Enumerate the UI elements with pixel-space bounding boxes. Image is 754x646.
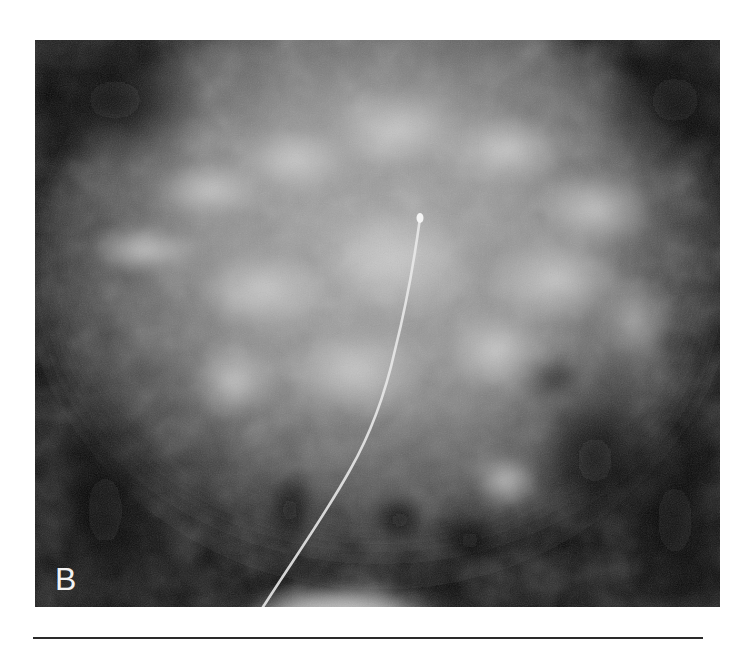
catheter-tip <box>417 213 424 223</box>
horizontal-rule <box>33 637 703 639</box>
panel-label: B <box>55 563 76 595</box>
radiograph-image <box>35 40 720 607</box>
radiograph-panel: B <box>35 40 720 607</box>
